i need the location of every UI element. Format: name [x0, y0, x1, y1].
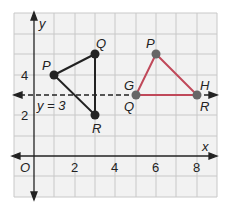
x-tick-6: 6 [152, 160, 159, 175]
y-tick-4: 4 [21, 68, 28, 83]
label-p-right: P [146, 36, 155, 51]
y-tick-2: 2 [21, 108, 28, 123]
point-p-left [50, 71, 59, 80]
coordinate-plane: y x O 2 4 6 8 4 2 y = 3 P Q R P G Q H R [0, 0, 225, 207]
line-equation-label: y = 3 [36, 98, 66, 113]
x-tick-2: 2 [71, 160, 78, 175]
x-axis-label: x [201, 139, 209, 154]
label-h: H [200, 78, 210, 93]
label-g: G [124, 78, 134, 93]
x-tick-4: 4 [111, 160, 118, 175]
label-q-right: Q [124, 99, 134, 114]
label-q-left: Q [96, 36, 106, 51]
x-tick-8: 8 [193, 160, 200, 175]
label-p-left: P [42, 58, 51, 73]
label-r-left: R [92, 121, 101, 136]
point-r-left [91, 111, 100, 120]
label-r-right: R [200, 99, 209, 114]
origin-label: O [20, 160, 30, 175]
